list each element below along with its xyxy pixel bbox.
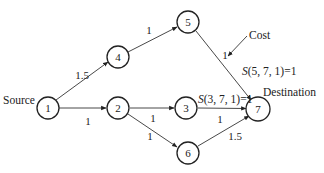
edge-1-4 <box>56 62 108 100</box>
edge-label-6-7: 1.5 <box>228 130 242 142</box>
svg-text:5: 5 <box>185 16 191 28</box>
svg-text:2: 2 <box>115 102 121 114</box>
s-5-7-annotation: S(5, 7, 1)=1 <box>242 65 297 78</box>
network-diagram: 1.5 1 1 1 1 1 1 1.5 1 2 3 4 5 6 7 Source… <box>0 0 324 173</box>
node-4: 4 <box>107 46 129 68</box>
edge-3-7 <box>198 108 246 109</box>
node-5: 5 <box>177 11 199 33</box>
s-3-7-annotation: S(3, 7, 1)=1 <box>198 93 253 106</box>
edge-label-5-7: 1 <box>222 49 228 61</box>
node-6: 6 <box>177 142 199 164</box>
node-1: 1 <box>37 97 59 119</box>
source-label: Source <box>3 94 35 106</box>
svg-text:4: 4 <box>115 51 121 63</box>
svg-text:3: 3 <box>183 102 189 114</box>
svg-text:7: 7 <box>255 103 261 115</box>
svg-text:6: 6 <box>185 147 191 159</box>
cost-pointer-arrow <box>228 36 247 56</box>
edges <box>56 27 251 147</box>
svg-text:1: 1 <box>45 102 51 114</box>
edge-label-2-6: 1 <box>147 130 153 142</box>
edge-label-2-3: 1 <box>150 112 156 124</box>
edge-labels: 1.5 1 1 1 1 1 1 1.5 <box>75 24 242 142</box>
edge-4-5 <box>128 27 177 52</box>
node-2: 2 <box>107 97 129 119</box>
cost-label: Cost <box>249 29 271 41</box>
edge-label-4-5: 1 <box>146 24 152 36</box>
edge-label-1-4: 1.5 <box>75 69 89 81</box>
destination-label: Destination <box>263 86 316 98</box>
edge-label-3-7: 1 <box>217 113 223 125</box>
edge-label-1-2: 1 <box>85 115 91 127</box>
node-3: 3 <box>175 97 197 119</box>
